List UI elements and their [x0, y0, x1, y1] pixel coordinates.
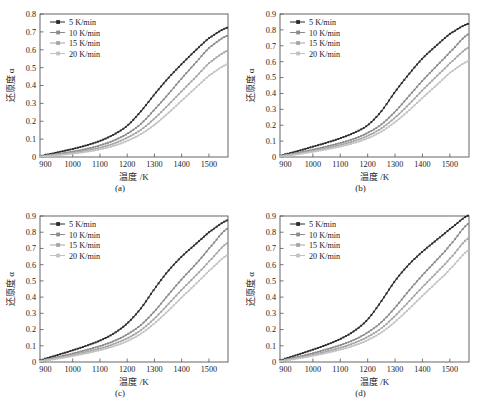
legend-marker	[296, 41, 300, 45]
y-tick-label: 0.1	[26, 342, 36, 351]
x-tick-label: 1400	[414, 365, 430, 374]
y-tick-label: 0.1	[26, 135, 36, 144]
x-tick-label: 1000	[305, 160, 321, 169]
legend-marker	[56, 222, 60, 226]
y-axis-title: 还原度 α	[245, 272, 256, 306]
y-tick-label: 0.8	[26, 228, 36, 237]
y-tick-label: 0	[32, 153, 36, 162]
legend-label: 10 K/min	[309, 231, 340, 240]
legend-marker	[296, 222, 300, 226]
legend-label: 10 K/min	[309, 29, 340, 38]
y-tick-label: 0.7	[266, 244, 276, 253]
legend-marker	[296, 243, 300, 247]
x-axis-title: 温度 /K	[119, 376, 149, 387]
y-tick-label: 0.9	[266, 10, 276, 19]
x-tick-label: 1000	[305, 365, 321, 374]
legend-label: 10 K/min	[69, 231, 100, 240]
x-tick-label: 1100	[92, 365, 108, 374]
panel-caption: (d)	[240, 388, 481, 398]
data-series	[39, 64, 228, 158]
x-tick-label: 1300	[387, 160, 403, 169]
x-axis-title: 温度 /K	[360, 376, 390, 387]
legend-item[interactable]: 10 K/min	[50, 231, 100, 240]
legend-label: 20 K/min	[309, 252, 340, 261]
legend: 5 K/min10 K/min15 K/min20 K/min	[50, 220, 100, 261]
y-tick-label: 0.6	[26, 261, 36, 270]
x-tick-label: 1500	[201, 160, 217, 169]
x-tick-label: 900	[39, 160, 51, 169]
legend-item[interactable]: 5 K/min	[50, 220, 96, 229]
x-tick-label: 900	[279, 365, 291, 374]
legend-item[interactable]: 15 K/min	[50, 39, 100, 48]
data-series	[279, 23, 469, 157]
y-tick-label: 0.8	[266, 26, 276, 35]
y-tick-label: 0.4	[266, 89, 276, 98]
legend-marker	[56, 20, 60, 24]
y-tick-label: 0.4	[26, 81, 36, 90]
legend-item[interactable]: 20 K/min	[290, 50, 340, 59]
legend-item[interactable]: 20 K/min	[290, 252, 340, 261]
y-tick-label: 0.6	[266, 58, 276, 67]
y-tick-label: 0.9	[26, 212, 36, 221]
legend-marker	[56, 243, 60, 247]
legend-marker	[56, 52, 60, 56]
x-tick-label: 1200	[359, 365, 375, 374]
legend-item[interactable]: 20 K/min	[50, 252, 100, 261]
y-tick-label: 0.2	[26, 117, 36, 126]
y-tick-label: 0.2	[266, 121, 276, 130]
x-tick-label: 1400	[173, 160, 189, 169]
legend-marker	[296, 254, 300, 258]
y-tick-label: 0.7	[26, 244, 36, 253]
legend-item[interactable]: 5 K/min	[50, 18, 96, 27]
y-tick-label: 0.8	[266, 228, 276, 237]
legend-item[interactable]: 10 K/min	[290, 231, 340, 240]
y-tick-label: 0.6	[266, 261, 276, 270]
x-tick-label: 1100	[92, 160, 108, 169]
legend-label: 20 K/min	[69, 252, 100, 261]
panel-c: 00.10.20.30.40.50.60.70.80.9900100011001…	[0, 200, 240, 405]
y-tick-label: 0.3	[266, 309, 276, 318]
x-tick-label: 1500	[442, 365, 458, 374]
legend: 5 K/min10 K/min15 K/min20 K/min	[290, 18, 340, 59]
x-tick-label: 1500	[201, 365, 217, 374]
figure-grid: 00.10.20.30.40.50.60.70.8900100011001200…	[0, 0, 481, 405]
x-tick-label: 1500	[442, 160, 458, 169]
y-tick-label: 0.1	[266, 342, 276, 351]
x-tick-label: 900	[39, 365, 51, 374]
data-series	[279, 215, 469, 362]
data-series	[279, 250, 469, 362]
panel-caption: (c)	[0, 388, 240, 398]
data-series	[279, 34, 469, 158]
y-tick-label: 0.2	[26, 325, 36, 334]
data-series	[39, 50, 228, 157]
y-tick-label: 0.2	[266, 325, 276, 334]
legend-item[interactable]: 10 K/min	[50, 29, 100, 38]
legend-item[interactable]: 15 K/min	[290, 39, 340, 48]
legend-item[interactable]: 15 K/min	[290, 241, 340, 250]
legend-label: 5 K/min	[309, 220, 336, 229]
data-series	[39, 228, 228, 362]
legend-item[interactable]: 15 K/min	[50, 241, 100, 250]
y-tick-label: 0.9	[266, 212, 276, 221]
legend-marker	[296, 52, 300, 56]
legend-item[interactable]: 20 K/min	[50, 50, 100, 59]
y-tick-label: 0	[272, 153, 276, 162]
x-tick-label: 1000	[65, 160, 81, 169]
legend-item[interactable]: 5 K/min	[290, 18, 336, 27]
y-tick-label: 0	[32, 358, 36, 367]
data-series	[39, 35, 228, 157]
y-tick-label: 0.4	[26, 293, 36, 302]
x-tick-label: 1400	[173, 365, 189, 374]
legend-label: 5 K/min	[309, 18, 336, 27]
x-tick-label: 900	[279, 160, 291, 169]
legend-label: 15 K/min	[69, 39, 100, 48]
panel-caption: (b)	[240, 183, 481, 193]
y-axis-title: 还原度 α	[245, 68, 256, 102]
legend-item[interactable]: 10 K/min	[290, 29, 340, 38]
legend-label: 15 K/min	[309, 39, 340, 48]
x-axis-title: 温度 /K	[360, 171, 390, 182]
x-tick-label: 1200	[119, 160, 135, 169]
x-tick-label: 1300	[146, 365, 162, 374]
legend-item[interactable]: 5 K/min	[290, 220, 336, 229]
x-tick-label: 1100	[332, 365, 348, 374]
